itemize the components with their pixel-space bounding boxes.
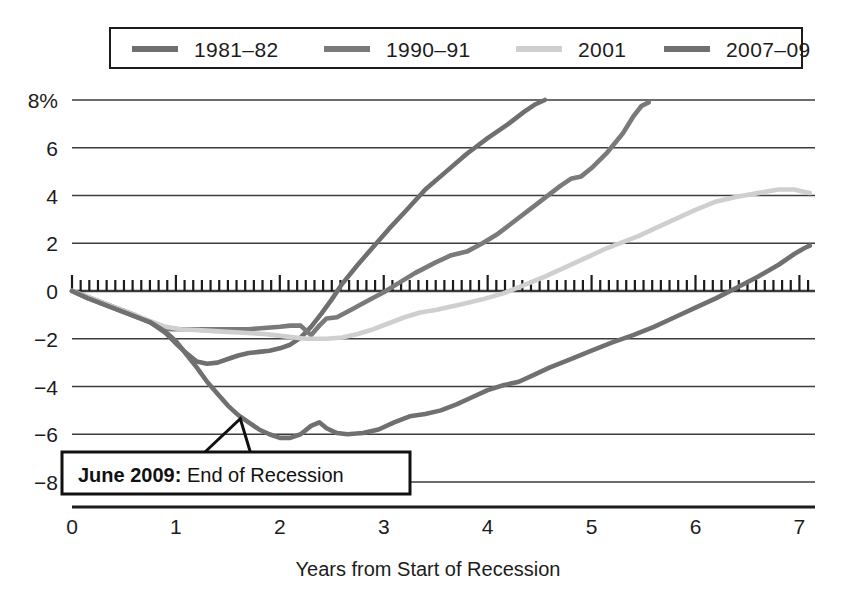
- chart-container: 1981–821990–9120012007–09 8%6420−2−4−6−8…: [0, 0, 849, 603]
- callout-text: June 2009: End of Recession: [78, 464, 344, 486]
- legend: 1981–821990–9120012007–09: [110, 28, 811, 68]
- x-axis-title: Years from Start of Recession: [296, 558, 561, 580]
- x-tick-label: 7: [794, 515, 806, 538]
- x-tick-label: 4: [482, 515, 494, 538]
- y-tick-label: 8%: [28, 89, 58, 112]
- x-tick-label: 2: [274, 515, 286, 538]
- y-tick-label: −4: [34, 376, 58, 399]
- y-tick-label: 6: [46, 137, 58, 160]
- legend-label-1: 1990–91: [386, 38, 471, 61]
- chart-background: [0, 0, 849, 603]
- recession-recovery-line-chart: 1981–821990–9120012007–09 8%6420−2−4−6−8…: [0, 0, 849, 603]
- y-tick-label: 0: [46, 280, 58, 303]
- y-tick-label: −6: [34, 423, 58, 446]
- legend-label-3: 2007–09: [726, 38, 811, 61]
- x-tick-label: 0: [66, 515, 78, 538]
- legend-label-0: 1981–82: [194, 38, 279, 61]
- y-tick-label: −2: [34, 328, 58, 351]
- callout-bold-text: June 2009:: [78, 464, 181, 486]
- x-tick-label: 6: [690, 515, 702, 538]
- legend-label-2: 2001: [578, 38, 626, 61]
- y-tick-label: −8: [34, 471, 58, 494]
- y-tick-label: 4: [46, 185, 58, 208]
- x-tick-label: 3: [378, 515, 390, 538]
- callout-plain-text: End of Recession: [181, 464, 343, 486]
- x-tick-label: 5: [586, 515, 598, 538]
- x-tick-label: 1: [170, 515, 182, 538]
- y-tick-label: 2: [46, 232, 58, 255]
